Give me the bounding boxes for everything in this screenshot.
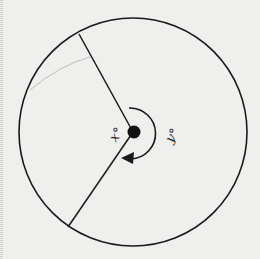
y-angle-label: y° (161, 126, 182, 147)
radius-lower (68, 132, 133, 227)
x-angle-label: x° (106, 125, 126, 145)
arrowhead-icon (121, 152, 134, 164)
center-point (128, 126, 141, 139)
radius-upper (79, 34, 133, 132)
circle-diagram: x° y° (0, 0, 260, 259)
pencil-mark (30, 57, 90, 90)
